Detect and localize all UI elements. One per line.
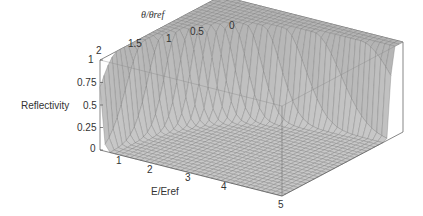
z-tick: 0.25 [77, 122, 96, 133]
y-tick: 1.5 [128, 38, 142, 49]
y-tick: 1 [166, 33, 172, 44]
x-tick: 5 [278, 199, 284, 210]
z-axis-label: Reflectivity [21, 100, 69, 111]
y-axis-label: θ/θref [141, 9, 164, 20]
y-tick: 2 [96, 45, 102, 56]
y-tick: 0 [229, 20, 235, 31]
x-tick: 2 [147, 164, 153, 175]
z-tick: 0 [90, 143, 96, 154]
x-tick: 4 [221, 181, 227, 192]
z-tick: 0.75 [77, 77, 96, 88]
x-tick: 3 [185, 172, 191, 183]
x-tick: 1 [116, 155, 122, 166]
z-tick: 0.5 [83, 100, 97, 111]
x-axis-label: E/Eref [151, 186, 179, 197]
y-tick: 0.5 [190, 26, 204, 37]
z-tick: 1 [88, 54, 94, 65]
